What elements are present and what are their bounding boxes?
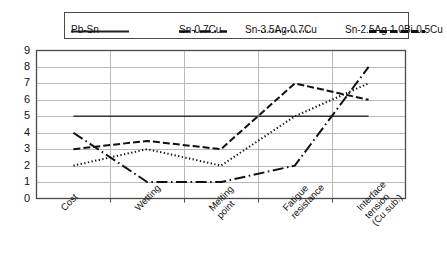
- y-tick-label: 6: [14, 94, 30, 105]
- series-line-sn-0-7cu: [73, 67, 368, 182]
- y-tick-label: 1: [14, 176, 30, 187]
- y-tick-label: 2: [14, 160, 30, 171]
- grid-lines: [37, 68, 406, 183]
- y-tick-label: 4: [14, 127, 30, 138]
- y-tick-label: 5: [14, 110, 30, 121]
- y-tick-label: 3: [14, 143, 30, 154]
- y-tick-label: 8: [14, 61, 30, 72]
- plot-frame: [37, 51, 406, 199]
- y-tick-label: 9: [14, 45, 30, 56]
- series-line-sn-3-5ag-0-7cu: [73, 83, 368, 165]
- y-tick-label: 7: [14, 77, 30, 88]
- y-tick-label: 0: [14, 193, 30, 204]
- series-lines: [73, 67, 368, 182]
